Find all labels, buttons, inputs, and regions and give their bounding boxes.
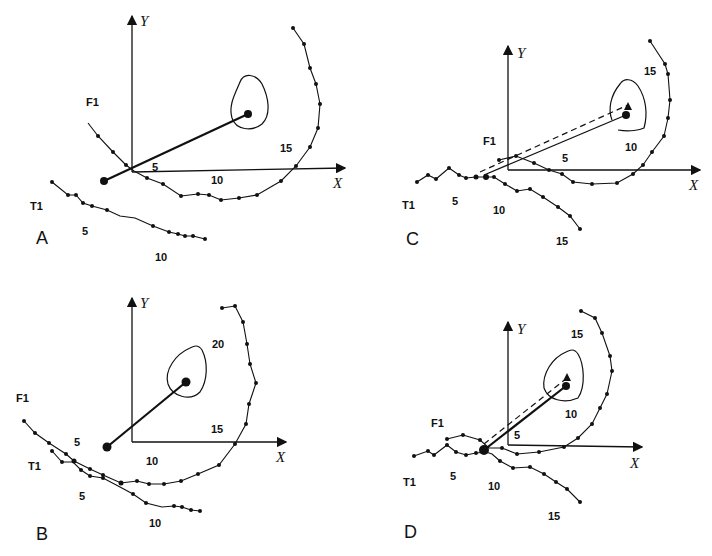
x-axis	[132, 168, 345, 172]
t1-track	[417, 168, 580, 229]
x-axis-label: X	[688, 177, 699, 193]
f1-track	[88, 28, 320, 200]
t1-track	[414, 445, 580, 502]
marker-15: 15	[571, 328, 583, 340]
f1-points	[445, 309, 614, 456]
marker-t-5: 5	[452, 195, 458, 207]
y-axis-label: Y	[140, 13, 150, 29]
track-label-f1: F1	[483, 135, 496, 147]
marker-t-5: 5	[82, 225, 88, 237]
track-label-f1: F1	[16, 392, 29, 404]
x-axis-label: X	[332, 175, 343, 191]
predicted-vector	[484, 378, 567, 444]
marker-t-10: 10	[493, 204, 505, 216]
f1-points	[22, 304, 258, 486]
track-label-t1: T1	[402, 199, 415, 211]
marker-5: 5	[562, 152, 568, 164]
target-outline	[231, 75, 268, 128]
marker-15: 15	[644, 65, 656, 77]
marker-t-15: 15	[548, 510, 560, 522]
track-label-f1: F1	[86, 96, 99, 108]
marker-10: 10	[565, 408, 577, 420]
panel-label-b: B	[36, 524, 48, 544]
marker-15: 15	[280, 142, 292, 154]
panel-b: Y X F1 T1 5 10 15 20 5 10	[16, 295, 286, 544]
marker-5: 5	[514, 429, 520, 441]
marker-20: 20	[212, 338, 224, 350]
direction-vector	[484, 386, 566, 450]
panel-c: Y X F1 T1 5 10 15 5	[402, 39, 700, 249]
marker-t-5: 5	[79, 490, 85, 502]
target-outline	[544, 350, 584, 401]
direction-vector	[107, 382, 186, 447]
marker-5: 5	[152, 161, 158, 173]
direction-vector	[484, 115, 626, 175]
f1-track	[24, 306, 256, 484]
f1-track	[447, 311, 612, 454]
x-axis	[508, 445, 642, 447]
panel-label-d: D	[404, 522, 417, 542]
marker-10: 10	[625, 141, 637, 153]
y-axis-label: Y	[517, 321, 527, 337]
f1-points	[96, 26, 322, 202]
x-axis-label: X	[275, 449, 286, 465]
marker-10: 10	[146, 455, 158, 467]
trajectory-figure: Y X F1 T1 5 10 15 5 10 A	[0, 0, 712, 556]
panel-a: Y X F1 T1 5 10 15 5 10 A	[30, 13, 345, 263]
marker-t-10: 10	[488, 480, 500, 492]
t1-track	[52, 182, 205, 239]
panel-label-a: A	[36, 228, 48, 248]
y-axis-label: Y	[140, 295, 150, 311]
predicted-vector	[480, 105, 628, 172]
track-label-f1: F1	[431, 417, 444, 429]
x-axis-label: X	[629, 455, 640, 471]
marker-t-15: 15	[556, 235, 568, 247]
panel-d: Y X F1 T1 5 10 15 5 10	[403, 309, 642, 542]
marker-t-10: 10	[155, 251, 167, 263]
marker-t-10: 10	[149, 517, 161, 529]
t1-points	[50, 180, 207, 241]
marker-10: 10	[211, 174, 223, 186]
marker-t-5: 5	[450, 470, 456, 482]
y-axis-label: Y	[517, 45, 527, 61]
track-label-t1: T1	[30, 200, 43, 212]
track-label-t1: T1	[403, 476, 416, 488]
marker-5: 5	[74, 436, 80, 448]
panel-label-c: C	[406, 229, 419, 249]
track-label-t1: T1	[28, 460, 41, 472]
target-outline	[167, 346, 206, 397]
f1-track	[499, 41, 670, 184]
marker-15: 15	[211, 423, 223, 435]
